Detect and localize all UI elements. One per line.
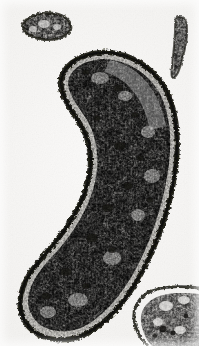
fragment-bottom-right: lower right tissue fragment: [0, 0, 199, 346]
micrograph-figure: central crescent tissue section: [0, 0, 199, 346]
